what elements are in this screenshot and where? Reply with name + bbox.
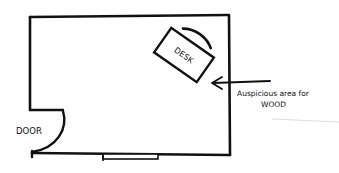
annotation-line2: WOOD xyxy=(261,100,286,109)
wall-right xyxy=(229,15,230,155)
annotation-line1: Auspicious area for xyxy=(237,89,310,98)
desk: DESK xyxy=(154,19,220,83)
window xyxy=(103,154,158,161)
scan-artifact xyxy=(272,119,339,122)
floor-plan-diagram: DOOR DESK Auspicious area for WOOD xyxy=(0,0,339,173)
door-label: DOOR xyxy=(16,126,42,136)
wall-top xyxy=(30,15,228,17)
arrow-icon xyxy=(212,77,270,89)
